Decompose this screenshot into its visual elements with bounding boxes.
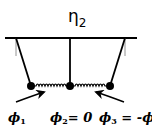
left-arrow-icon <box>16 92 44 102</box>
phi1-label: ϕ1 <box>8 110 26 126</box>
phi2-label: ϕ2= 0 <box>50 110 92 126</box>
right-bob <box>106 82 114 90</box>
left-pendulum-rod <box>16 38 31 86</box>
right-pendulum-rod <box>110 38 125 86</box>
left-bob <box>27 82 35 90</box>
left-spring <box>31 84 70 86</box>
right-spring <box>70 84 110 86</box>
eta-mode-label: η2 <box>68 6 86 30</box>
right-arrow-icon <box>96 92 124 102</box>
middle-bob <box>66 82 74 90</box>
phi3-label: ϕ3 = -ϕ1 <box>99 110 152 126</box>
